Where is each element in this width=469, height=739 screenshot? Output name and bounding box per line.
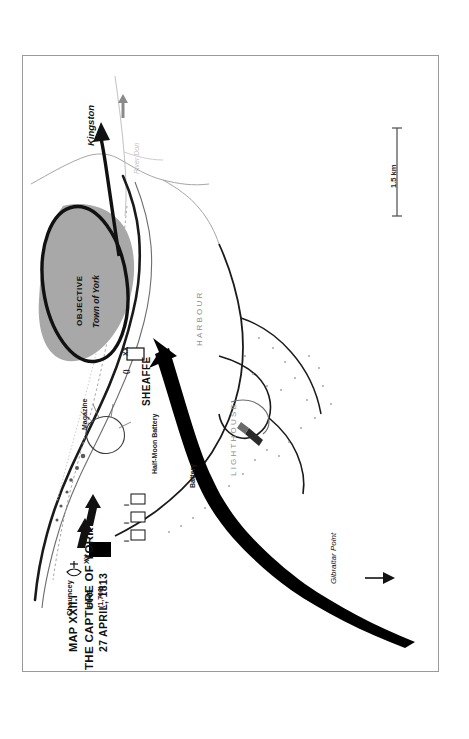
company-box-2 — [131, 512, 145, 522]
gibraltar-point-arrow — [365, 572, 395, 584]
north-shore-path — [31, 154, 209, 185]
label-town-of-york: Town of York — [91, 275, 101, 328]
main-assault-arrow — [155, 348, 415, 648]
label-objective: OBJECTIVE — [75, 275, 84, 326]
label-half-moon-battery: Half-Moon Battery — [151, 414, 158, 474]
page-title-line2: 27 APRIL, 1813 — [97, 573, 109, 652]
label-lighthouse: LIGHTHOUSE — [229, 402, 238, 476]
label-company-echelon-3: I — [123, 540, 130, 542]
label-battery: Battery — [189, 464, 196, 488]
label-company-echelon-1: I — [123, 504, 130, 506]
secondary-advance-arrow — [85, 494, 101, 526]
label-gibraltar-point: Gibraltar Point — [329, 533, 338, 584]
label-magazine: Magazine — [81, 398, 88, 430]
sandbar-outer-arc — [241, 318, 321, 414]
legend-label-pike-echelon: XX — [83, 555, 90, 564]
scale-bar-label: 1.5 km — [389, 165, 398, 188]
legend-label-pike: PIKE — [85, 589, 94, 608]
map-frame: MAP XXII.i THE CAPTURE OF YORK 27 APRIL,… — [22, 55, 439, 672]
label-sheaffe: SHEAFFE — [141, 357, 152, 406]
chauncey-ship-icon — [67, 561, 81, 576]
label-sheaffe-echelon: XX — [122, 347, 129, 356]
label-company-echelon-2: I — [123, 522, 130, 524]
legend-label-pike-strength: (1,700) — [97, 586, 104, 608]
company-box-3 — [131, 530, 145, 540]
river-don-branch — [124, 152, 163, 160]
label-harbour: HARBOUR — [195, 291, 204, 346]
northeast-shore-path — [163, 180, 219, 244]
legend-label-chauncey: Chauncey — [65, 580, 74, 616]
label-kingston: Kingston — [85, 105, 96, 146]
sandbar-tail — [269, 418, 304, 494]
label-river-don: River Don — [133, 143, 140, 174]
label-sheaffe-strength: () — [122, 369, 129, 374]
company-box-1 — [131, 494, 145, 504]
